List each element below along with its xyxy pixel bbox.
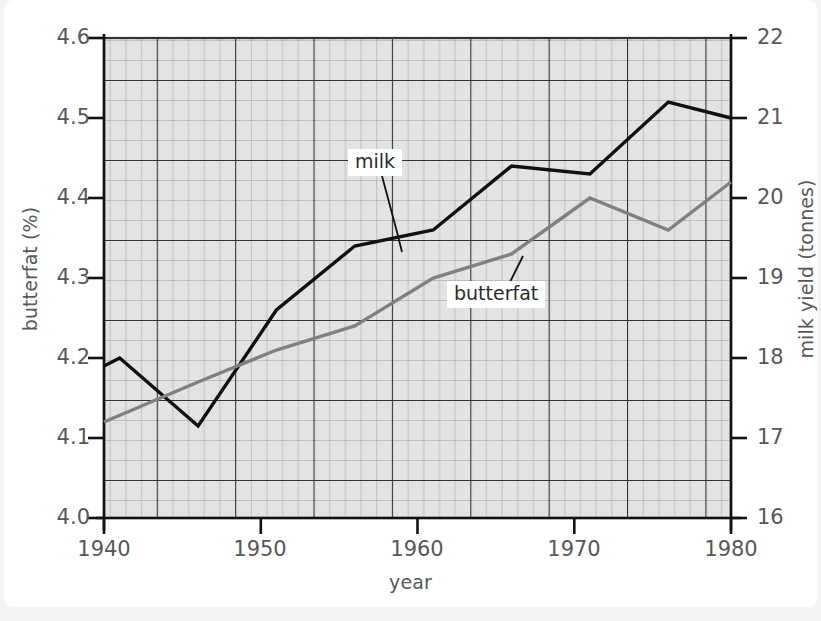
chart-figure: 4.6 4.5 4.4 4.3 4.2 4.1 4.0 22 21 20 19 … <box>0 0 821 621</box>
ytick-left-4-0: 4.0 <box>40 505 90 529</box>
xtick-1970: 1970 <box>524 537 624 561</box>
ytick-left-4-1: 4.1 <box>40 425 90 449</box>
ytick-left-4-5: 4.5 <box>40 105 90 129</box>
ytick-right-16: 16 <box>757 505 784 529</box>
series-label-butterfat: butterfat <box>447 281 545 308</box>
ytick-left-4-6: 4.6 <box>40 25 90 49</box>
x-axis-label: year <box>0 571 821 593</box>
xtick-1980: 1980 <box>681 537 781 561</box>
xtick-1940: 1940 <box>54 537 154 561</box>
right-axis-ticks <box>731 38 747 518</box>
chart-plot-area <box>0 0 821 621</box>
ytick-right-18: 18 <box>757 345 784 369</box>
plot-grid <box>104 38 731 518</box>
left-axis-ticks <box>88 38 104 518</box>
ytick-left-4-3: 4.3 <box>40 265 90 289</box>
x-axis-ticks <box>104 518 731 534</box>
y-axis-label-right: milk yield (tonnes) <box>795 169 817 369</box>
ytick-right-20: 20 <box>757 185 784 209</box>
ytick-right-22: 22 <box>757 25 784 49</box>
xtick-1950: 1950 <box>210 537 310 561</box>
ytick-right-21: 21 <box>757 105 784 129</box>
xtick-1960: 1960 <box>367 537 467 561</box>
ytick-left-4-4: 4.4 <box>40 185 90 209</box>
y-axis-label-left: butterfat (%) <box>19 179 41 359</box>
ytick-left-4-2: 4.2 <box>40 345 90 369</box>
ytick-right-17: 17 <box>757 425 784 449</box>
ytick-right-19: 19 <box>757 265 784 289</box>
series-label-milk: milk <box>348 149 402 176</box>
